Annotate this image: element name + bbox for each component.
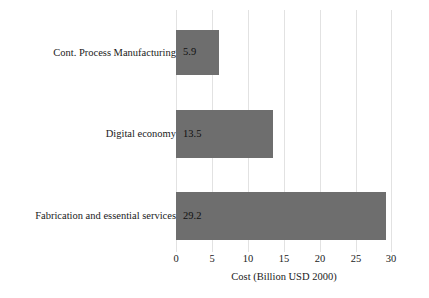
x-tick-label-15: 15 [279,254,290,265]
x-tick-label-20: 20 [315,254,326,265]
bar-chart: Cont. Process Manufacturing Digital econ… [0,0,429,298]
x-tick-label-5: 5 [209,254,214,265]
x-tick-label-25: 25 [351,254,362,265]
bar-fabrication-and-essential-services[interactable]: 29.2 [176,192,386,240]
bar-cont-process-manufacturing[interactable]: 5.9 [176,30,219,75]
gridline-30 [391,10,392,252]
category-label-cont-process-manufacturing: Cont. Process Manufacturing [53,48,176,59]
category-label-fabrication-and-essential-services: Fabrication and essential services [35,211,176,222]
bar-value-label: 29.2 [183,211,201,222]
x-tick-label-10: 10 [243,254,254,265]
x-axis-title: Cost (Billion USD 2000) [176,272,392,283]
category-label-digital-economy: Digital economy [106,129,176,140]
bar-value-label: 5.9 [183,47,196,58]
x-tick-label-0: 0 [173,254,178,265]
bar-digital-economy[interactable]: 13.5 [176,110,273,158]
bar-value-label: 13.5 [183,129,201,140]
plot-area: 5.9 13.5 29.2 [176,10,392,252]
x-tick-label-30: 30 [386,254,397,265]
